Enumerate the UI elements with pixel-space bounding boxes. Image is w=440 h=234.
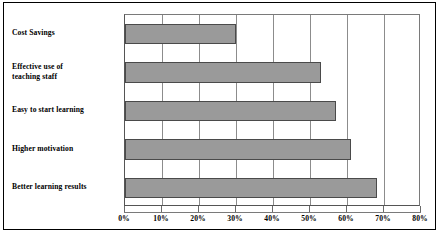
category-label: Cost Savings	[12, 28, 117, 38]
x-axis-tick-label: 80%	[400, 214, 440, 223]
x-axis-tick-labels: 0%10%20%30%40%50%60%70%80%	[124, 214, 421, 228]
category-label: Higher motivation	[12, 144, 117, 154]
x-axis-tick-label: 70%	[363, 214, 403, 223]
category-label-line: Better learning results	[12, 182, 117, 192]
bar	[125, 24, 236, 44]
x-axis-tick-label: 20%	[178, 214, 218, 223]
category-label: Effective use ofteaching staff	[12, 62, 117, 81]
bar	[125, 139, 351, 159]
bar	[125, 101, 336, 121]
x-axis-line	[124, 212, 421, 213]
bar	[125, 178, 377, 198]
category-label-line: Higher motivation	[12, 144, 117, 154]
category-label-line: Cost Savings	[12, 28, 117, 38]
x-axis-tick-label: 40%	[252, 214, 292, 223]
x-axis-tick-label: 10%	[141, 214, 181, 223]
x-axis-tick-label: 0%	[104, 214, 144, 223]
x-axis-tick-label: 60%	[326, 214, 366, 223]
category-axis-labels: Cost SavingsEffective use ofteaching sta…	[4, 9, 117, 207]
x-axis-tick-label: 50%	[289, 214, 329, 223]
category-label-line: teaching staff	[12, 72, 117, 82]
bar	[125, 62, 321, 82]
bar-series	[125, 15, 419, 205]
category-label-line: Effective use of	[12, 62, 117, 72]
x-axis-tick-label: 30%	[215, 214, 255, 223]
category-label: Better learning results	[12, 182, 117, 192]
chart-frame: Cost SavingsEffective use ofteaching sta…	[3, 2, 436, 230]
category-label: Easy to start learning	[12, 105, 117, 115]
category-label-line: Easy to start learning	[12, 105, 117, 115]
plot-area	[124, 14, 420, 206]
